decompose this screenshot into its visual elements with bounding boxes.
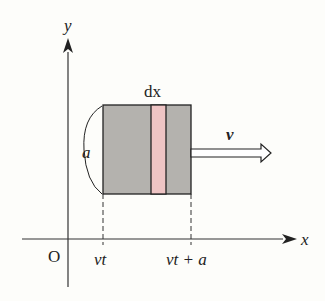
y-axis-label: y: [62, 16, 72, 35]
tick-label-vt-plus-a: vt + a: [166, 250, 207, 269]
x-axis: [22, 234, 297, 244]
diagram-canvas: y x O dx a v vt vt + a: [0, 0, 325, 301]
tick-label-vt: vt: [94, 250, 108, 269]
velocity-label: v: [226, 125, 234, 144]
y-axis: [63, 38, 73, 287]
moving-block: [103, 105, 191, 194]
x-axis-label: x: [300, 230, 309, 249]
side-length-label: a: [82, 143, 91, 162]
dx-label: dx: [144, 82, 162, 101]
y-axis-arrow-icon: [63, 38, 73, 53]
x-axis-arrow-icon: [282, 234, 297, 244]
origin-label: O: [48, 247, 60, 266]
dx-strip: [151, 105, 166, 194]
velocity-arrow-icon: [191, 144, 271, 162]
